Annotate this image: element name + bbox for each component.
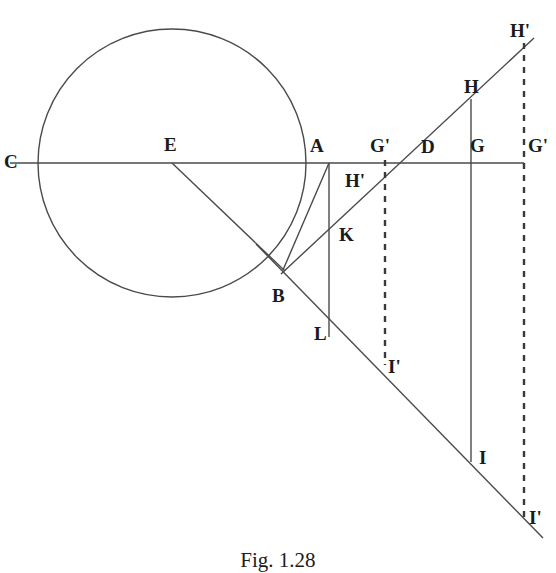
vertex-label-G: G [470,136,485,155]
vertex-label-I-prime-right: I' [529,508,542,527]
vertex-label-D: D [421,137,435,156]
vertex-label-B: B [272,286,285,305]
vertex-label-G-prime-left: G' [370,136,390,155]
vertex-label-G-prime-right: G' [528,136,548,155]
vertex-label-I-prime-left: I' [388,357,401,376]
radius-segment-E-B [172,163,285,271]
descending-line-through-B-L-I [256,244,543,538]
vertex-label-K: K [339,225,354,244]
vertex-label-L: L [314,324,327,343]
vertex-label-H-prime-upper: H' [510,21,530,40]
vertex-label-A: A [310,136,324,155]
vertex-label-C: C [4,152,18,171]
chord-segment-A-B [283,163,329,270]
vertex-label-H: H [464,77,479,96]
ascending-line-B-to-Hprime [281,38,534,274]
vertex-label-E: E [164,135,177,154]
vertex-label-H-prime-lower: H' [345,171,365,190]
figure-caption: Fig. 1.28 [0,548,556,573]
vertex-label-I: I [479,448,486,467]
